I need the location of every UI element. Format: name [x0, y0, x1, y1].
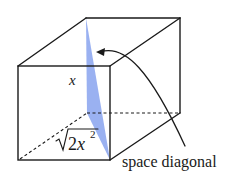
edge-top-left: [18, 18, 86, 66]
arrowhead-icon: [96, 48, 105, 56]
space-diagonal-label: space diagonal: [122, 153, 217, 171]
base-diagonal-label: 2x: [68, 134, 85, 154]
base-diagonal-radicand: 2x: [68, 134, 85, 154]
edge-top-right: [110, 18, 180, 66]
edge-length-label: x: [68, 72, 76, 88]
cube-diagram: x 2x 2 space diagonal: [0, 0, 238, 175]
base-diagonal-exponent: 2: [90, 128, 96, 140]
